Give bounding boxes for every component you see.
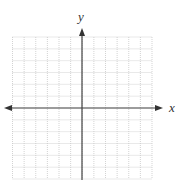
x-axis-left-arrow-icon [4,105,12,111]
y-axis-up-arrow-icon [79,28,85,36]
x-axis-right-arrow-icon [155,105,163,111]
coordinate-grid [0,0,176,180]
x-axis-label: x [169,101,175,114]
y-axis-label: y [78,10,84,23]
